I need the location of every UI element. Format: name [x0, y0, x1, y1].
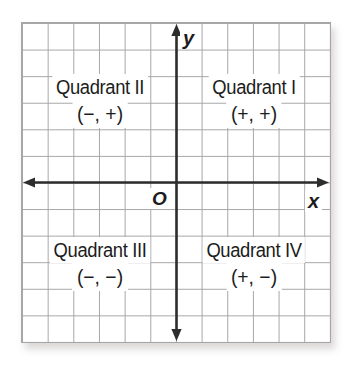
arrow-right-icon: [317, 177, 329, 187]
quadrant-3-signs: (−, −): [72, 263, 127, 291]
coordinate-plane-figure: y x O Quadrant II (−, +) Quadrant I (+, …: [0, 0, 351, 370]
quadrant-1-name: Quadrant I: [209, 74, 300, 100]
quadrant-4-label-block: Quadrant IV (+, −): [203, 237, 306, 291]
arrow-left-icon: [23, 177, 35, 187]
quadrant-3-label-block: Quadrant III (−, −): [50, 237, 150, 291]
origin-label: O: [149, 188, 170, 209]
x-axis-label: x: [305, 190, 322, 212]
quadrant-4-signs: (+, −): [226, 263, 281, 291]
quadrant-2-name: Quadrant II: [52, 74, 147, 100]
y-axis-label: y: [180, 27, 197, 49]
quadrant-4-name: Quadrant IV: [203, 237, 306, 263]
quadrant-1-label-block: Quadrant I (+, +): [209, 74, 300, 128]
axes: [22, 23, 330, 342]
quadrant-3-name: Quadrant III: [50, 237, 150, 263]
quadrant-1-signs: (+, +): [226, 100, 281, 128]
grid-area: y x O Quadrant II (−, +) Quadrant I (+, …: [21, 22, 331, 343]
quadrant-2-signs: (−, +): [72, 100, 127, 128]
quadrant-2-label-block: Quadrant II (−, +): [52, 74, 147, 128]
arrow-down-icon: [171, 329, 181, 341]
